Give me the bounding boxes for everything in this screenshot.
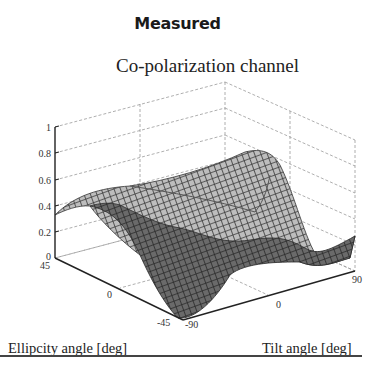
y-tick-label: 90 (352, 274, 362, 285)
surface-plot: 1 0.8 0.6 0.4 0.2 0 45 0 -45 -90 0 90 (0, 0, 388, 365)
y-tick-label: 0 (276, 299, 281, 310)
x-tick-label: -45 (157, 317, 170, 328)
z-tick-label: 1 (46, 122, 51, 133)
z-tick-label: 0.6 (39, 175, 52, 186)
z-tick-label: 0.2 (39, 227, 52, 238)
divider-rule (0, 355, 362, 357)
z-tick-label: 0.4 (39, 201, 52, 212)
x-tick-label: 45 (40, 260, 50, 271)
z-tick-label: 0.8 (39, 148, 52, 159)
surface-mesh (55, 151, 355, 319)
x-tick-label: 0 (107, 289, 112, 300)
y-tick-label: -90 (185, 319, 198, 330)
